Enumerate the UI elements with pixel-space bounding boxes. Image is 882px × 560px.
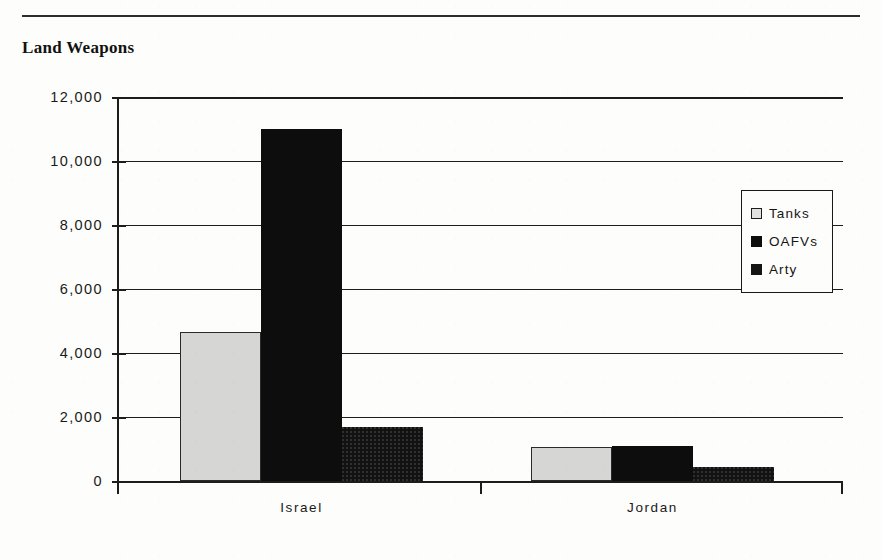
bar-jordan-tanks: [531, 447, 612, 481]
bar-israel-arty: [342, 427, 423, 481]
x-tick-2: [841, 481, 843, 494]
bar-jordan-arty: [693, 467, 774, 481]
legend-label-tanks: Tanks: [769, 206, 810, 221]
gridline-10000: [117, 161, 843, 162]
bar-israel-tanks: [180, 332, 261, 481]
y-tick-label-6000: 6,000: [60, 281, 103, 297]
y-tick-label-12000: 12,000: [50, 89, 103, 105]
x-axis-labels: IsraelJordan: [117, 500, 843, 526]
legend-item-2[interactable]: Arty: [751, 255, 832, 283]
plot-area: [117, 97, 843, 481]
legend-label-arty: Arty: [769, 262, 797, 277]
legend-item-1[interactable]: OAFVs: [751, 227, 832, 255]
legend-item-0[interactable]: Tanks: [751, 199, 832, 227]
legend-swatch-tanks: [751, 208, 762, 219]
y-tick-label-4000: 4,000: [60, 345, 103, 361]
gridline-12000: [117, 97, 843, 99]
chart-page: Land Weapons 02,0004,0006,0008,00010,000…: [0, 0, 882, 560]
y-tick-label-2000: 2,000: [60, 409, 103, 425]
y-axis-labels: 02,0004,0006,0008,00010,00012,000: [0, 97, 103, 481]
x-tick-1: [480, 481, 482, 494]
legend-label-oafvs: OAFVs: [769, 234, 818, 249]
y-tick-label-0: 0: [94, 473, 103, 489]
x-tick-label-israel: Israel: [280, 500, 323, 515]
chart-title: Land Weapons: [22, 38, 134, 58]
x-tick-0: [117, 481, 119, 494]
gridline-6000: [117, 289, 843, 290]
gridline-8000: [117, 225, 843, 226]
y-tick-label-8000: 8,000: [60, 217, 103, 233]
header-rule: [22, 15, 860, 17]
legend-swatch-arty: [751, 264, 762, 275]
bar-jordan-oafvs: [612, 446, 693, 481]
legend-swatch-oafvs: [751, 236, 762, 247]
y-tick-label-10000: 10,000: [50, 153, 103, 169]
bar-israel-oafvs: [261, 129, 342, 481]
x-tick-label-jordan: Jordan: [627, 500, 678, 515]
chart-legend: Tanks OAFVs Arty: [741, 190, 833, 293]
x-axis-ticks: [117, 481, 843, 495]
